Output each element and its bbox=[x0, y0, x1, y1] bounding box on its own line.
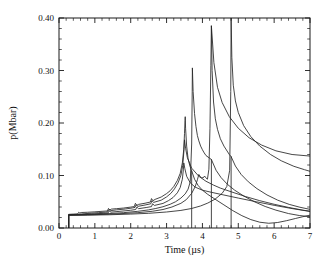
curve-7 bbox=[211, 26, 310, 156]
figure-container: 012345670.000.100.200.300.40 Time (µs) p… bbox=[0, 0, 327, 277]
y-tick-label: 0.00 bbox=[38, 223, 54, 233]
data-curves bbox=[69, 18, 310, 228]
y-axis-label: p(Mbar) bbox=[7, 106, 19, 139]
x-tick-label: 4 bbox=[200, 231, 205, 241]
x-tick-label: 7 bbox=[308, 231, 313, 241]
axes: 012345670.000.100.200.300.40 bbox=[38, 13, 313, 241]
curve-10 bbox=[231, 157, 310, 210]
y-tick-label: 0.10 bbox=[38, 171, 54, 181]
x-tick-label: 3 bbox=[164, 231, 169, 241]
curve-8 bbox=[192, 171, 310, 224]
x-tick-label: 6 bbox=[272, 231, 277, 241]
y-tick-label: 0.40 bbox=[38, 13, 54, 23]
pressure-history-chart: 012345670.000.100.200.300.40 Time (µs) p… bbox=[0, 0, 327, 277]
x-tick-label: 2 bbox=[128, 231, 133, 241]
x-tick-label: 0 bbox=[57, 231, 62, 241]
x-axis-label: Time (µs) bbox=[165, 244, 205, 256]
y-tick-label: 0.30 bbox=[38, 66, 54, 76]
y-tick-label: 0.20 bbox=[38, 118, 54, 128]
curve-5 bbox=[69, 26, 231, 228]
x-tick-label: 1 bbox=[93, 231, 98, 241]
x-tick-label: 5 bbox=[236, 231, 241, 241]
